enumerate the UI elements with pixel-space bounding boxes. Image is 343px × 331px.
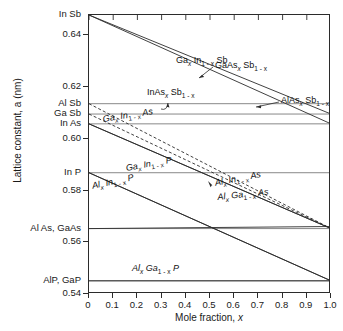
x-tick-label: 1.0 <box>315 299 343 310</box>
y-tick-label-compound: In As <box>60 118 81 128</box>
y-tick-label-numeric: 0.54 <box>63 288 82 298</box>
x-tick <box>306 293 307 298</box>
curve-label-gaassb: GaAsx Sb1 - x <box>215 60 267 72</box>
curve-label-algap: Alx Ga1 - x P <box>132 263 179 275</box>
plot-area: Gax In1 - x Sb InAsx Sb1 - x GaAsx Sb1 -… <box>88 14 330 293</box>
y-tick-label-numeric: 0.64 <box>63 29 82 39</box>
y-tick-label-numeric: 0.58 <box>63 185 82 195</box>
y-tick-label-numeric: 0.56 <box>63 236 82 246</box>
x-tick <box>330 293 331 298</box>
y-tick-label-compound: In P <box>64 167 81 177</box>
x-tick <box>257 293 258 298</box>
lattice-constant-chart: Lattice constant, a (nm) 0.640.620.600.5… <box>0 0 343 331</box>
y-axis-title: Lattice constant, a (nm) <box>12 51 23 211</box>
x-tick <box>209 293 210 298</box>
y-tick-label-compound: Al As, GaAs <box>30 223 81 233</box>
curve-label-alassb: AlAsx Sb1 - x <box>281 95 329 107</box>
y-tick-label-compound: In Sb <box>59 9 81 19</box>
reference-lines <box>89 104 330 281</box>
y-tick-label-numeric: 0.60 <box>63 133 82 143</box>
y-tick-label-numeric: 0.62 <box>63 81 82 91</box>
x-tick <box>161 293 162 298</box>
y-tick-label-compound: AlP, GaP <box>43 275 81 285</box>
x-tick <box>88 293 89 298</box>
x-axis-title: Mole fraction, x <box>88 312 330 323</box>
x-tick <box>185 293 186 298</box>
x-tick <box>112 293 113 298</box>
x-tick <box>136 293 137 298</box>
series-gaas-x-sb-1-x <box>89 114 330 229</box>
x-tick <box>282 293 283 298</box>
x-tick <box>233 293 234 298</box>
curve-label-inassb: InAsx Sb1 - x <box>147 87 194 99</box>
